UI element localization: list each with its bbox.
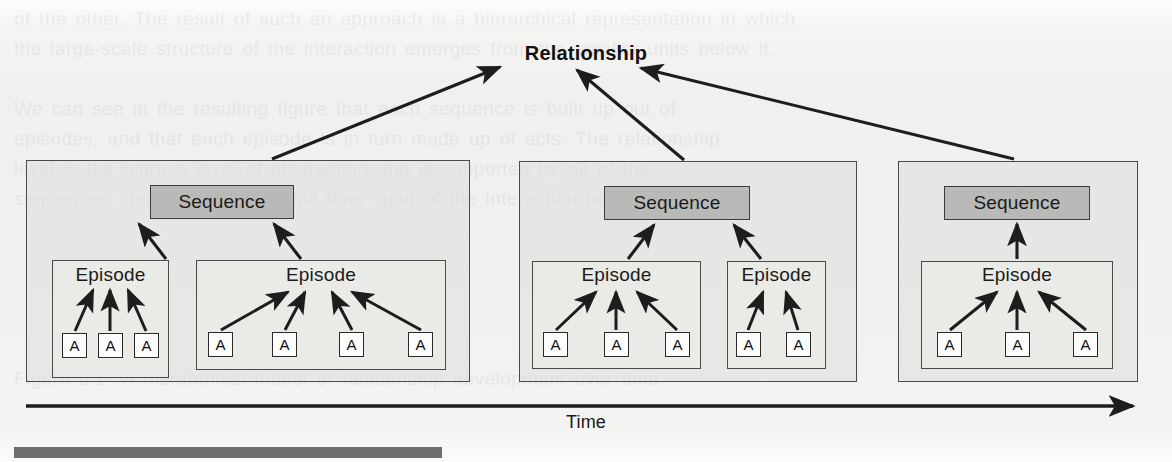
atom-node: A: [604, 332, 629, 357]
page-footer-bar: [14, 447, 442, 458]
atom-node: A: [208, 332, 233, 357]
arrow-group1-to-relationship: [272, 67, 500, 159]
episode-label-2-2: Episode: [727, 264, 826, 286]
time-axis-label: Time: [0, 412, 1172, 433]
figure-page: of the other. The result of such an appr…: [0, 0, 1172, 462]
sequence-node-2: Sequence: [604, 186, 750, 220]
relationship-arrows: [272, 67, 1014, 160]
atom-node: A: [272, 332, 297, 357]
sequence-node-1: Sequence: [150, 185, 294, 219]
atom-node: A: [408, 332, 433, 357]
atom-node: A: [339, 332, 364, 357]
episode-label-1-2: Episode: [196, 264, 446, 286]
atom-node: A: [134, 333, 159, 358]
atom-node: A: [937, 332, 962, 357]
atom-node: A: [786, 332, 811, 357]
atom-node: A: [62, 333, 87, 358]
atom-node: A: [1073, 332, 1098, 357]
atom-node: A: [543, 332, 568, 357]
episode-label-2-1: Episode: [532, 264, 701, 286]
atom-node: A: [665, 332, 690, 357]
diagram: Relationship Sequence Episode A A A Epis…: [0, 0, 1172, 462]
episode-label-3-1: Episode: [921, 264, 1113, 286]
atom-node: A: [98, 333, 123, 358]
sequence-node-3: Sequence: [944, 186, 1090, 220]
atom-node: A: [736, 332, 761, 357]
arrow-group3-to-relationship: [641, 68, 1014, 159]
episode-label-1-1: Episode: [52, 264, 169, 286]
relationship-node-label: Relationship: [0, 42, 1172, 65]
arrow-group2-to-relationship: [577, 70, 684, 160]
atom-node: A: [1005, 332, 1030, 357]
